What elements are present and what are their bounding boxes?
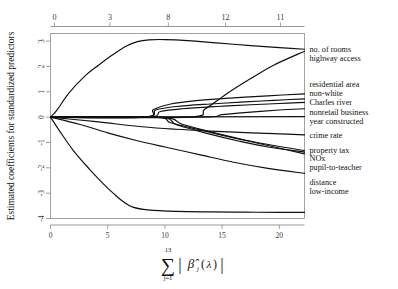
summation-lower-limit: j=1 [163,274,173,281]
coefficient-path-no-of-rooms [51,40,305,118]
series-label: residential area [310,80,360,89]
y-tick-label: -3 [37,190,46,196]
series-label: low-income [310,187,349,196]
x-tick-label: 5 [106,231,110,240]
y-axis-title: Estimated coefficients for standardized … [6,31,16,220]
series-label: distance [310,178,337,187]
top-tick-label: 12 [222,13,230,22]
beta-subscript-j: j [196,265,199,273]
x-tick-label: 15 [218,231,226,240]
coefficient-path-non-white [51,99,305,118]
series-label: nonretail business [310,108,369,117]
y-tick-label: -1 [37,139,46,145]
series-label: pupil-to-teacher [310,163,363,172]
summation-upper-limit: 13 [165,246,172,253]
top-tick-label: 11 [277,13,285,22]
y-tick-label: -2 [37,164,46,170]
x-axis-title-formula: ∑ 13 j=1 | β̂ j ( λ ) | [161,246,224,281]
lambda-symbol: λ [206,258,212,270]
top-tick-label: 0 [53,13,57,22]
top-axis-ticks [55,23,281,27]
bottom-axis-tick-labels: 05101520 [49,231,284,240]
series-labels: no. of roomshighway accessresidential ar… [310,45,369,196]
y-tick-label: 1 [37,90,46,94]
series-label: no. of rooms [310,45,352,54]
top-tick-label: 8 [166,13,170,22]
y-tick-label: 2 [37,64,46,68]
y-tick-label: 3 [37,39,46,43]
abs-bar-right: | [220,255,223,274]
chart-svg: 0381211 05101520 3210-1-2-3-4 no. of roo… [0,0,398,289]
lasso-coefficient-path-figure: 0381211 05101520 3210-1-2-3-4 no. of roo… [0,0,398,289]
top-tick-label: 3 [108,13,112,22]
paren-open: ( [201,257,205,271]
x-tick-label: 0 [49,231,53,240]
coefficient-path-nonretail-business [51,109,305,118]
paren-close: ) [213,257,217,271]
bottom-axis-ticks [51,225,305,229]
series-label: non-white [310,89,344,98]
series-label: highway access [310,54,361,63]
x-tick-label: 20 [276,231,284,240]
top-axis-tick-labels: 0381211 [53,13,285,22]
coefficient-path-charles-river [51,102,305,117]
left-axis-ticks [46,41,51,218]
coefficient-path-highway-access [51,51,305,117]
coefficient-path-residential-area [51,94,305,118]
series-label: Charles river [310,98,353,107]
plot-frame [51,34,305,219]
coefficient-path-low-income [51,117,305,212]
y-tick-label: 0 [37,115,46,119]
series-label: crime rate [310,131,343,140]
abs-bar-left: | [178,255,181,274]
x-tick-label: 10 [161,231,169,240]
y-tick-label: -4 [37,215,46,221]
coefficient-path-crime-rate [51,117,305,135]
coefficient-paths [51,40,305,213]
left-axis-tick-labels: 3210-1-2-3-4 [37,39,46,222]
series-label: year constructed [310,117,364,126]
